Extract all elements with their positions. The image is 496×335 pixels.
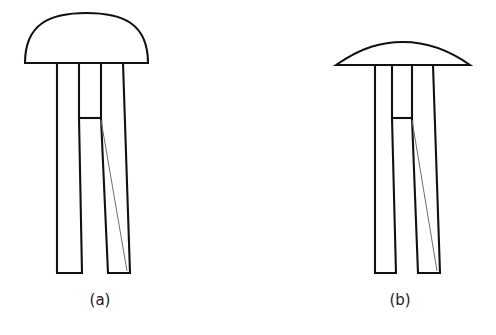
panel-b: (b) <box>336 42 470 309</box>
panel-a: (a) <box>25 13 148 309</box>
panel-a-label: (a) <box>90 291 111 309</box>
figure-canvas: (a) (b) <box>0 0 496 335</box>
panel-a-cap-dome <box>25 13 148 63</box>
panel-a-left-leg <box>57 63 82 273</box>
panel-b-label: (b) <box>389 291 410 309</box>
panel-b-left-leg <box>375 65 396 273</box>
panel-b-cap-flat <box>336 42 470 65</box>
panel-a-right-leg <box>101 63 130 273</box>
panel-b-right-leg <box>412 65 440 273</box>
